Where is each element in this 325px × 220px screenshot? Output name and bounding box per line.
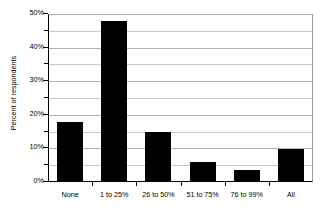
x-axis-tick [181,182,182,186]
x-axis-tick-label: 26 to 50% [136,190,180,200]
y-axis-tick-label: 50% [18,9,44,17]
y-axis-tick-label: 10% [18,143,44,151]
y-axis-tick [43,13,48,14]
y-axis-tick [44,131,48,132]
y-axis-tick [43,114,48,115]
x-axis-tick-label: 51 to 75% [181,190,225,200]
bar [278,149,304,181]
x-axis-tick [269,182,270,186]
y-axis-tick [44,164,48,165]
bar-series [49,14,312,181]
y-axis-tick [43,80,48,81]
y-axis-tick-label: 40% [18,43,44,51]
x-axis-tick-label: 1 to 25% [92,190,136,200]
y-axis-tick-label: 0% [18,177,44,185]
x-axis-tick-labels: None1 to 25%26 to 50%51 to 75%76 to 99%A… [48,190,313,204]
y-axis-tick [44,30,48,31]
x-axis-tick-label: 76 to 99% [225,190,269,200]
y-axis-tick-label: 20% [18,110,44,118]
bar-chart: Percent of respondents 0%10%20%30%40%50%… [0,0,325,220]
y-axis-tick-label: 30% [18,76,44,84]
y-axis-tick [43,147,48,148]
bar [190,162,216,181]
bar [101,21,127,181]
bar [234,170,260,181]
x-axis-tick-label: All [269,190,313,200]
x-axis-tick-label: None [48,190,92,200]
x-axis-tick [136,182,137,186]
bar [57,122,83,181]
x-axis-tick [225,182,226,186]
y-axis-tick [44,97,48,98]
bar [145,132,171,181]
x-axis-tick [92,182,93,186]
y-axis-tick [43,47,48,48]
y-axis-tick [43,181,48,182]
y-axis-tick-labels: 0%10%20%30%40%50% [14,0,44,220]
y-axis-tick [44,63,48,64]
